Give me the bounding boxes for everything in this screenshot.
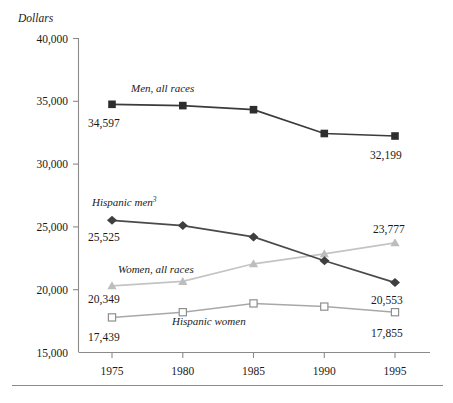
series-label-hispanic-men-superscript: 3 [152, 195, 157, 204]
marker-men-1980 [179, 102, 187, 110]
series-hispanic-men: Hispanic men3 25,525 20,553 [88, 195, 403, 307]
marker-women-1995 [390, 238, 399, 246]
marker-hispanic-men-1995 [390, 278, 400, 287]
marker-hispanic-women-1975 [108, 314, 115, 321]
marker-men-1990 [321, 130, 329, 138]
series-label-hispanic-men: Hispanic men3 [91, 195, 157, 208]
value-label-hispanic-women-1975: 17,439 [88, 331, 120, 344]
y-tick-label-30000: 30,000 [36, 158, 68, 171]
marker-hispanic-men-1975 [107, 216, 117, 225]
value-label-women-1975: 20,349 [88, 293, 120, 306]
value-label-women-1995: 23,777 [373, 223, 405, 236]
value-label-hispanic-men-1995: 20,553 [371, 294, 403, 307]
value-label-men-1995: 32,199 [370, 149, 402, 162]
x-tick-label-1995: 1995 [384, 365, 407, 377]
series-hispanic-women: Hispanic women 17,439 17,855 [88, 300, 403, 344]
y-tick-label-15000: 15,000 [36, 347, 68, 360]
y-tick-label-35000: 35,000 [36, 95, 68, 108]
x-tick-label-1990: 1990 [313, 365, 336, 377]
line-chart: Dollars 40,000 35,000 30,000 25,000 20,0… [0, 0, 453, 403]
marker-hispanic-men-1980 [178, 221, 188, 230]
value-label-hispanic-women-1995: 17,855 [371, 327, 403, 340]
chart-figure: Dollars 40,000 35,000 30,000 25,000 20,0… [0, 0, 453, 403]
x-tick-marks [112, 353, 395, 359]
marker-men-1975 [108, 101, 116, 109]
marker-men-1995 [391, 132, 399, 140]
marker-hispanic-women-1995 [391, 309, 398, 316]
value-label-men-1975: 34,597 [88, 117, 120, 130]
x-tick-labels: 1975 1980 1985 1990 1995 [101, 365, 407, 377]
value-label-hispanic-men-1975: 25,525 [88, 231, 120, 244]
marker-hispanic-men-1985 [249, 232, 259, 241]
marker-men-1985 [250, 106, 258, 114]
marker-hispanic-men-1990 [320, 256, 330, 265]
y-axis-title: Dollars [17, 12, 54, 24]
series-label-women-all-races: Women, all races [118, 263, 194, 275]
y-tick-labels: 40,000 35,000 30,000 25,000 20,000 15,00… [36, 33, 68, 360]
series-hispanic-men-markers [107, 216, 400, 287]
x-tick-label-1980: 1980 [171, 365, 194, 377]
y-tick-label-25000: 25,000 [36, 221, 68, 234]
marker-hispanic-women-1990 [321, 303, 328, 310]
series-label-hispanic-women: Hispanic women [171, 315, 246, 327]
x-tick-label-1975: 1975 [101, 365, 124, 377]
series-label-hispanic-men-text: Hispanic men [91, 196, 153, 208]
y-tick-label-20000: 20,000 [36, 284, 68, 297]
series-men-all-races: Men, all races 34,597 32,199 [88, 82, 402, 162]
series-hispanic-women-markers [108, 300, 398, 321]
x-tick-label-1985: 1985 [242, 365, 265, 377]
series-label-men-all-races: Men, all races [130, 82, 194, 94]
marker-hispanic-women-1985 [250, 300, 257, 307]
y-tick-label-40000: 40,000 [36, 33, 68, 46]
